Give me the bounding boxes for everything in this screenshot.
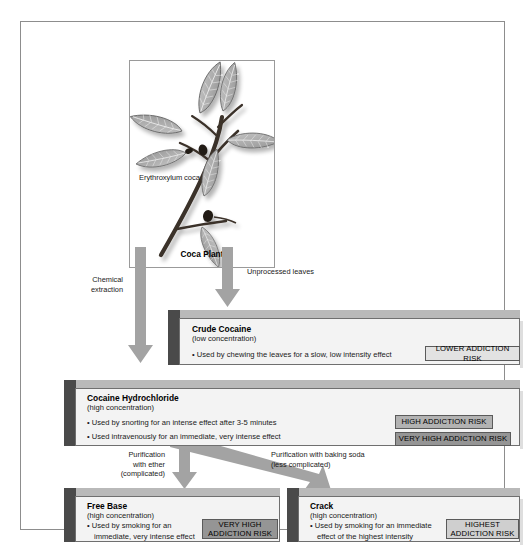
box-bullet: • Used by smoking for an immediate effec… xyxy=(310,521,447,542)
label-chemical-extraction: Chemical extraction xyxy=(67,275,123,294)
box-free-base: Free Base (high concentration) • Used by… xyxy=(64,488,280,542)
risk-badge-high: HIGH ADDICTION RISK xyxy=(395,415,493,429)
label-purification-baking-soda: Purification with baking soda (less comp… xyxy=(271,450,461,469)
box-bullet: • Used intravenously for an immediate, v… xyxy=(87,432,281,443)
box-bullet: • Used by snorting for an intense effect… xyxy=(87,418,277,429)
risk-badge-very-high: VERY HIGH ADDICTION RISK xyxy=(202,519,278,539)
box-bullet: • Used by smoking for an immediate, very… xyxy=(87,521,202,542)
risk-badge-very-high: VERY HIGH ADDICTION RISK xyxy=(395,432,511,446)
box-subtitle: (high concentration) xyxy=(310,511,377,521)
box-crude-cocaine: Crude Cocaine (low concentration) • Used… xyxy=(168,310,520,365)
arrow-chemical-extraction xyxy=(128,247,158,367)
box-cocaine-hydrochloride: Cocaine Hydrochloride (high concentratio… xyxy=(64,380,520,446)
species-label: Erythroxylum coca xyxy=(139,173,200,182)
risk-badge-lower: LOWER ADDICTION RISK xyxy=(425,346,520,361)
box-bullet: • Used by chewing the leaves for a slow,… xyxy=(192,350,392,361)
arrow-unprocessed-leaves xyxy=(215,247,245,309)
coca-plant-panel: Erythroxylum coca Coca Plant xyxy=(129,60,275,268)
figure-frame: Erythroxylum coca Coca Plant Chemical ex… xyxy=(20,21,505,530)
box-subtitle: (low concentration) xyxy=(192,334,256,344)
box-subtitle: (high concentration) xyxy=(87,403,154,413)
box-title: Free Base xyxy=(87,501,127,511)
box-crack: Crack (high concentration) • Used by smo… xyxy=(287,488,520,542)
box-title: Cocaine Hydrochloride xyxy=(87,393,179,403)
risk-badge-highest: HIGHEST ADDICTION RISK xyxy=(446,519,519,539)
coca-plant-illustration xyxy=(130,61,275,268)
box-title: Crack xyxy=(310,501,333,511)
box-subtitle: (high concentration) xyxy=(87,511,154,521)
label-unprocessed-leaves: Unprocessed leaves xyxy=(247,267,367,277)
box-title: Crude Cocaine xyxy=(192,324,251,334)
label-purification-ether: Purification with ether (complicated) xyxy=(103,450,165,479)
